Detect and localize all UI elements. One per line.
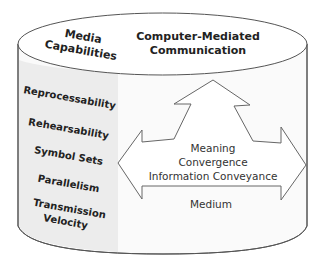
meaning-label-line2: Convergence [178, 156, 247, 168]
cmc-title-line1: Computer-Mediated [136, 30, 260, 43]
cmc-title: Computer-Mediated Communication [136, 30, 260, 57]
medium-label: Medium [190, 198, 232, 210]
cmc-title-line2: Communication [150, 44, 246, 57]
diagram-canvas: Media Capabilities Computer-Mediated Com… [0, 0, 323, 269]
information-conveyance-label: Information Conveyance [149, 170, 278, 182]
meaning-label-line1: Meaning [191, 142, 236, 154]
